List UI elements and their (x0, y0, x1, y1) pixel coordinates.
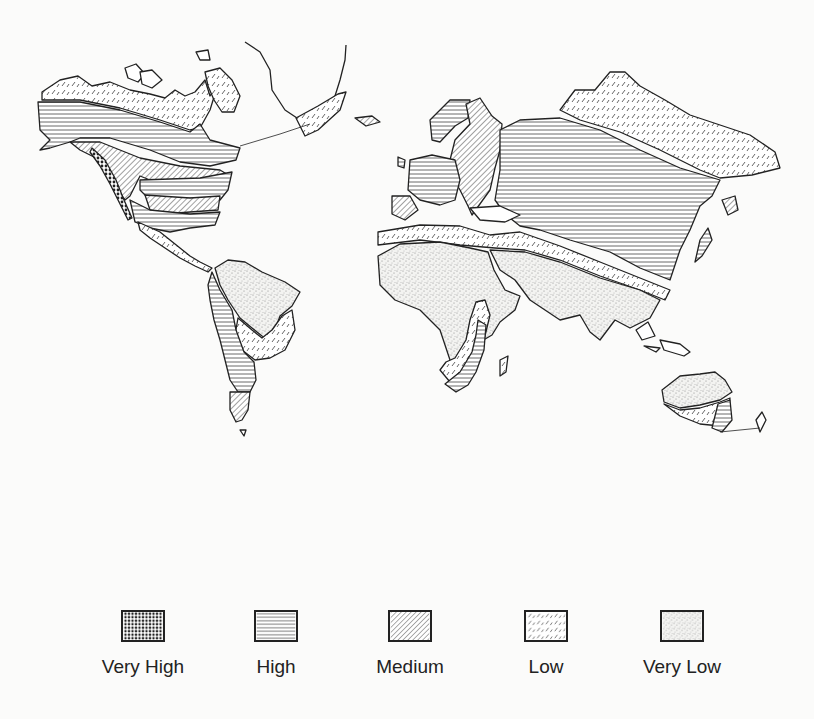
legend-item-very-low: Very Low (612, 610, 752, 678)
legend-item-high: High (206, 610, 346, 678)
north-america (38, 68, 240, 272)
region-iberia-medium (392, 196, 418, 220)
south-america (208, 260, 300, 436)
iceland (355, 116, 380, 126)
region-patagonia-medium (230, 392, 250, 422)
greenland (240, 42, 380, 146)
legend-item-very-high: Very High (73, 610, 213, 678)
medium-swatch (388, 610, 432, 642)
legend-label: Very High (73, 656, 213, 678)
legend-label: Medium (340, 656, 480, 678)
australia (662, 372, 766, 432)
legend-label: Low (476, 656, 616, 678)
legend-label: Very Low (612, 656, 752, 678)
high-swatch (254, 610, 298, 642)
region-kamchatka-medium (722, 196, 738, 215)
legend-label: High (206, 656, 346, 678)
very-low-swatch (660, 610, 704, 642)
madagascar (500, 356, 508, 376)
region-uk-ireland-high (398, 157, 405, 168)
world-map (0, 0, 814, 600)
legend-item-low: Low (476, 610, 616, 678)
legend-item-medium: Medium (340, 610, 480, 678)
region-western-europe-high (408, 155, 460, 205)
low-swatch (524, 610, 568, 642)
very-high-swatch (121, 610, 165, 642)
legend: Very High High Medium Low Very Low (0, 610, 814, 700)
region-japan-high (695, 228, 712, 262)
region-greenland-south-low (296, 92, 346, 136)
